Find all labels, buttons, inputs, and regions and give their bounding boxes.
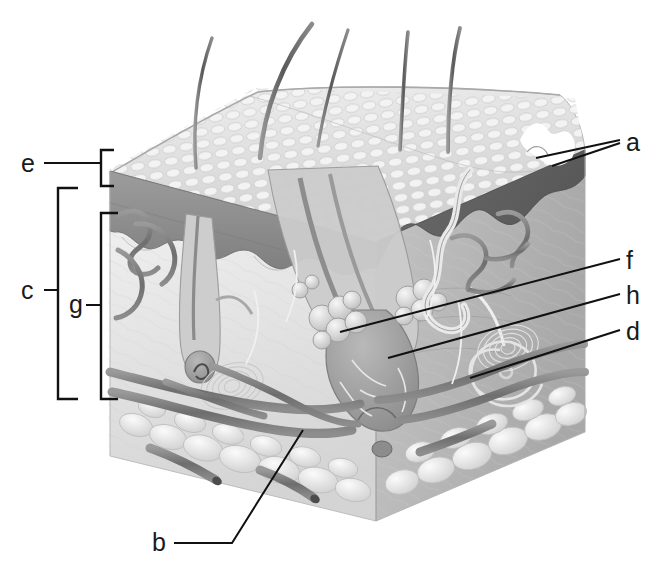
label-d: d (626, 319, 640, 344)
skin-cross-section-illustration (0, 0, 663, 568)
label-h: h (626, 283, 640, 308)
dermal-papilla (372, 441, 392, 457)
label-g: g (69, 292, 83, 317)
label-e: e (21, 151, 35, 176)
label-c: c (21, 278, 34, 303)
label-a: a (626, 130, 640, 155)
label-f: f (626, 248, 633, 273)
label-b: b (152, 530, 166, 555)
figure-canvas: e c g a f h d b (0, 0, 663, 568)
